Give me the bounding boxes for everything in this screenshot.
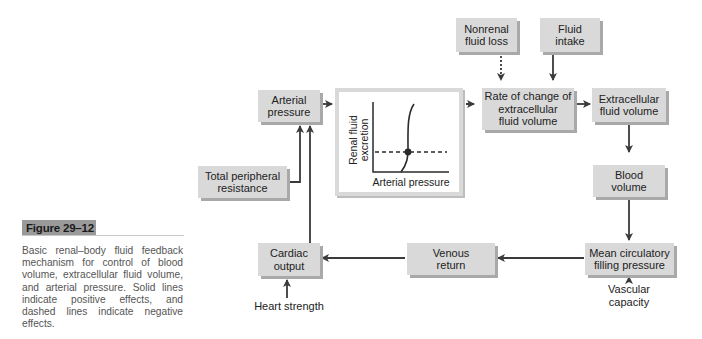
- node-label: Extracellular: [599, 93, 660, 106]
- edge-tpr-to-arterial: [287, 126, 300, 182]
- node-venous-return: Venousreturn: [407, 243, 495, 275]
- svg-text:Arterial pressure: Arterial pressure: [372, 176, 449, 188]
- node-label: Arterial: [268, 94, 311, 107]
- node-label: output: [270, 260, 308, 273]
- renal-function-curve: Renal fluid excretion Arterial pressure: [339, 92, 459, 192]
- node-blood-volume: Bloodvolume: [593, 165, 665, 197]
- node-label: fluid volume: [599, 105, 660, 118]
- input-heart-strength: Heart strength: [245, 300, 333, 313]
- node-label: Blood: [611, 169, 646, 182]
- node-cardiac-output: Cardiacoutput: [258, 243, 320, 276]
- node-label: Mean circulatory: [589, 247, 670, 260]
- node-label: intake: [555, 35, 584, 48]
- node-label: Venous: [433, 247, 470, 260]
- node-label: extracellular: [485, 103, 572, 116]
- renal-function-curve-panel: Renal fluid excretion Arterial pressure: [335, 88, 463, 196]
- node-rate-of-change-ecf-volume: Rate of change ofextracellularfluid volu…: [482, 88, 574, 130]
- node-fluid-intake: Fluidintake: [540, 18, 600, 52]
- input-label: Vascular: [598, 283, 660, 296]
- node-label: Cardiac: [270, 247, 308, 260]
- node-nonrenal-fluid-loss: Nonrenalfluid loss: [456, 18, 517, 52]
- input-vascular-capacity: Vascular capacity: [598, 283, 660, 308]
- node-label: Total peripheral: [205, 170, 280, 183]
- node-mean-circulatory-filling-pressure: Mean circulatoryfilling pressure: [585, 243, 674, 275]
- diagram-canvas: Figure 29–12 Basic renal–body fluid feed…: [0, 0, 702, 339]
- node-extracellular-fluid-volume: Extracellularfluid volume: [592, 88, 666, 122]
- node-label: Fluid: [555, 23, 584, 36]
- node-label: filling pressure: [589, 259, 670, 272]
- node-total-peripheral-resistance: Total peripheralresistance: [198, 166, 287, 198]
- node-label: Rate of change of: [485, 90, 572, 103]
- node-label: return: [433, 259, 470, 272]
- node-label: Nonrenal: [464, 23, 509, 36]
- node-label: resistance: [205, 182, 280, 195]
- node-label: fluid volume: [485, 115, 572, 128]
- node-arterial-pressure: Arterialpressure: [258, 90, 320, 122]
- input-label: capacity: [598, 296, 660, 309]
- node-label: fluid loss: [464, 35, 509, 48]
- node-label: volume: [611, 181, 646, 194]
- svg-text:excretion: excretion: [358, 119, 370, 162]
- node-label: pressure: [268, 106, 311, 119]
